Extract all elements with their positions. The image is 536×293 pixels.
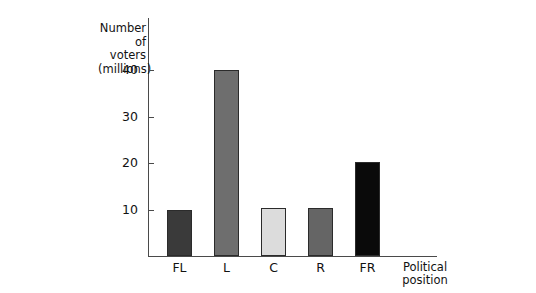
y-axis-title-line-2: of voters [98, 36, 146, 63]
y-axis-title-line-1: Number [98, 22, 146, 36]
x-axis-line [148, 256, 437, 257]
bar-fr [355, 162, 380, 256]
y-axis-tick [148, 210, 154, 211]
x-axis-label-r: R [296, 261, 345, 275]
y-axis-tick-label: 40 [100, 64, 138, 76]
y-axis-tick-label: 10 [100, 204, 138, 216]
x-axis-title: Political position [392, 261, 458, 287]
y-axis-tick-label: 30 [100, 111, 138, 123]
y-axis-tick [148, 70, 154, 71]
bar-c [261, 208, 286, 256]
bar-r [308, 208, 333, 256]
y-axis-line [148, 18, 149, 257]
bar-chart-figure: Number of voters (millions) Political po… [0, 0, 536, 293]
bar-fl [167, 210, 192, 257]
x-axis-label-c: C [249, 261, 298, 275]
x-axis-title-line-2: position [392, 274, 458, 287]
bar-l [214, 70, 239, 256]
y-axis-tick [148, 163, 154, 164]
x-axis-label-fr: FR [343, 261, 392, 275]
y-axis-tick [148, 117, 154, 118]
y-axis-tick-label: 20 [100, 157, 138, 169]
x-axis-label-l: L [202, 261, 251, 275]
x-axis-label-fl: FL [155, 261, 204, 275]
